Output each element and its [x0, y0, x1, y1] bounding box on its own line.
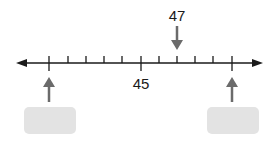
pointer-label: 47	[169, 8, 186, 23]
answer-box-right[interactable]	[207, 107, 259, 134]
answer-box-left[interactable]	[24, 107, 76, 134]
up-arrow-left-icon	[43, 77, 55, 102]
tick-label-45: 45	[133, 76, 150, 91]
up-arrow-right-icon	[226, 77, 238, 102]
left-arrowhead-icon	[16, 59, 27, 67]
down-arrow-icon	[171, 26, 183, 50]
right-arrowhead-icon	[252, 59, 263, 67]
